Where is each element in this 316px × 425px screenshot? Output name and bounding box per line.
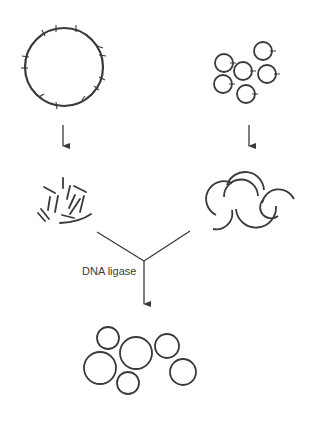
large-circular-dna <box>21 25 106 109</box>
small-plasmids <box>214 42 280 103</box>
opened-plasmids <box>206 172 294 229</box>
recombinant-plasmids <box>84 327 196 394</box>
dna-fragments <box>38 178 91 223</box>
dna-ligation-diagram <box>0 0 316 425</box>
cut-site-ticks <box>21 25 106 109</box>
dna-ligase-label: DNA ligase <box>82 265 136 277</box>
